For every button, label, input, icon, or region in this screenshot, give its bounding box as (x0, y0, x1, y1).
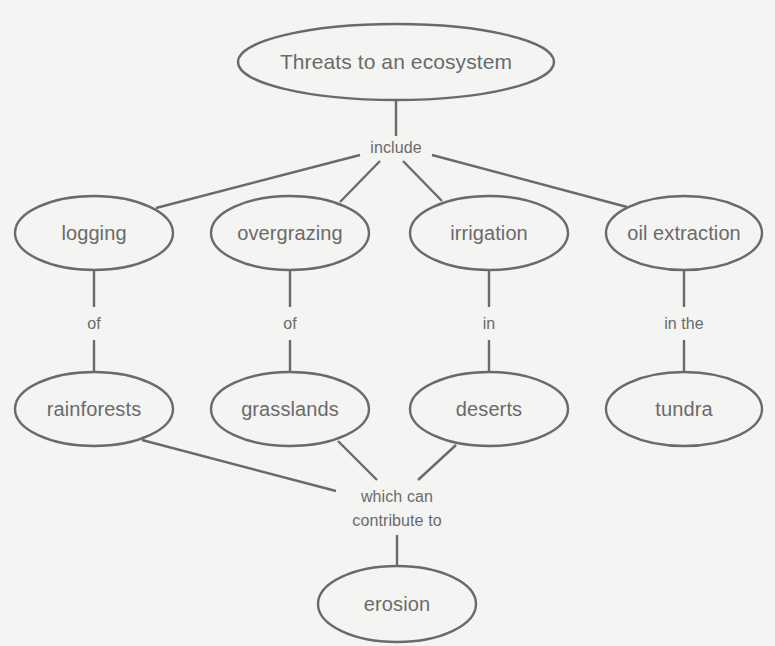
node-grasslands: grasslands (241, 398, 339, 421)
link-include: include (370, 136, 421, 160)
edge-grasslands-contribute (338, 441, 377, 480)
node-irrigation: irrigation (450, 222, 528, 245)
edge-rainforests-contribute (142, 440, 336, 491)
edge-include-irrigation (403, 161, 442, 201)
link-contribute-line1: which can (352, 485, 441, 509)
link-in-the-oil: in the (664, 312, 704, 336)
node-deserts: deserts (456, 398, 522, 421)
node-tundra: tundra (655, 398, 712, 421)
link-contribute-line2: contribute to (352, 509, 441, 533)
node-oil-extraction: oil extraction (627, 222, 741, 245)
link-in-irrigation: in (483, 312, 496, 336)
node-overgrazing: overgrazing (237, 222, 343, 245)
node-logging: logging (61, 222, 126, 245)
link-of-overgrazing: of (283, 312, 297, 336)
link-contribute: which can contribute to (352, 485, 441, 533)
edge-deserts-contribute (418, 445, 456, 480)
node-rainforests: rainforests (47, 398, 141, 421)
concept-map-graphics (0, 0, 775, 646)
node-erosion: erosion (364, 593, 430, 616)
node-title: Threats to an ecosystem (280, 50, 512, 74)
edge-include-overgrazing (340, 161, 380, 202)
link-of-logging: of (87, 312, 101, 336)
concept-map: Threats to an ecosystem include logging … (0, 0, 775, 646)
